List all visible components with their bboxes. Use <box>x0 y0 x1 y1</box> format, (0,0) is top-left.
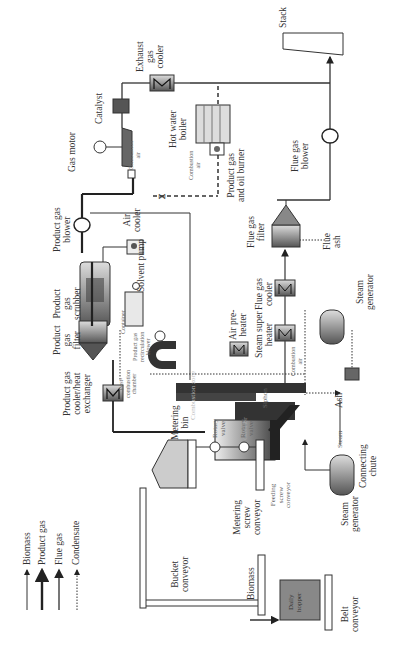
rotary-valve-1-icon <box>210 442 220 452</box>
recirculation-blower-label: Product gas recirculation blower <box>132 332 152 362</box>
legend-flue-gas-label: Flue gas <box>54 533 64 565</box>
hot-water-boiler-icon <box>196 105 230 155</box>
steam-generator-bottom-icon <box>330 455 354 495</box>
process-flow-diagram: ⋈ <box>0 0 405 664</box>
air-preheater-icon <box>230 342 248 356</box>
bucket-conveyor-label: Bucket conveyor <box>170 557 190 592</box>
product-gas-blower-label: Product gas blower <box>52 207 72 252</box>
belt-conveyor-icon <box>325 575 332 630</box>
svg-text:⋈: ⋈ <box>158 192 166 201</box>
stack-icon <box>283 33 343 55</box>
gas-motor-label: Gas motor <box>67 132 77 172</box>
feeding-screw-icon <box>256 440 264 490</box>
product-gas-cooler-label: Product gas cooler/heat exchanger <box>62 371 92 416</box>
legend-biomass-label: Biomass <box>22 532 32 565</box>
feeding-screw-conveyor-label: Feeding screw conveyor <box>270 482 293 508</box>
flue-gas-blower-label: Flue gas blower <box>290 140 310 172</box>
biomass-input-label: Biomass <box>246 567 256 600</box>
steam-superheater-label: Steam super heater <box>254 311 274 358</box>
siphon-label: Siphon <box>260 388 270 408</box>
air-cooler-label: Air cooler <box>122 208 142 232</box>
flue-gas-filter-label: Flue gas filter <box>246 216 266 248</box>
metering-screw-conveyor-label: Metering screw conveyor <box>232 500 262 535</box>
steam-superheater-icon <box>275 325 295 341</box>
stack-label: Stack <box>278 7 288 28</box>
container-label: Container <box>120 310 127 334</box>
steam-generator-top-label: Steam generator <box>355 274 375 310</box>
legend-product-gas-label: Product gas <box>37 520 47 565</box>
product-gas-scrubber-label: Product gas scrubber <box>52 287 82 320</box>
product-gas-scrubber-icon <box>80 262 110 326</box>
exhaust-gas-cooler-icon <box>150 75 174 91</box>
rotary-valve-1-label: Rotary valve <box>212 419 227 438</box>
ash-label: Ash <box>334 393 344 408</box>
rotary-valve-2-label: Rotary valve <box>240 419 255 438</box>
product-gas-filter-label: Product gas filter <box>52 325 82 355</box>
catalyst-icon <box>113 99 129 113</box>
steam-label: Steam <box>337 431 344 449</box>
recirculation-blower-icon <box>155 331 165 341</box>
metering-screw-icon <box>188 440 196 488</box>
flue-gas-filter-icon <box>272 205 300 247</box>
combustion-air-label-1: Combustion air <box>128 141 141 170</box>
steam-generator-top-icon <box>320 310 344 344</box>
legend <box>27 570 77 610</box>
connecting-chute-label: Connecting chute <box>358 444 378 488</box>
post-combustion-chamber-label: Post- combustion chamber <box>118 370 138 398</box>
air-preheater-label: Air pre- heater <box>228 310 248 340</box>
combustion-air-label-3: Combustion air <box>290 347 303 376</box>
metering-bin-label: Metering bin <box>170 405 190 440</box>
container-icon <box>125 292 143 326</box>
catalyst-label: Catalyst <box>94 93 104 124</box>
metering-bin-icon <box>152 440 188 488</box>
combustion-air-label-2: Combustion air <box>188 151 201 180</box>
hot-water-boiler-label: Hot water boiler <box>168 110 188 148</box>
post-combustion-chamber-icon <box>148 341 176 369</box>
flue-ash-label: Flue ash <box>322 233 342 250</box>
generator-icon <box>94 141 106 153</box>
exhaust-gas-cooler-label: Exhaust gas cooler <box>135 41 165 72</box>
daily-hopper-label: Daily hopper <box>288 593 303 612</box>
belt-conveyor-label: Belt conveyor <box>340 597 360 632</box>
product-gas-filter-icon <box>79 321 107 360</box>
product-gas-oil-burner-label: Product gas and oil burner <box>226 149 246 202</box>
solvent-pump-label: Solvent pump <box>136 239 146 292</box>
flue-gas-blower-icon <box>322 129 338 143</box>
legend-condensate-label: Condensate <box>71 521 81 565</box>
flue-gas-cooler-label: Flue gas cooler <box>254 278 274 310</box>
heat-exchanger-icon <box>345 368 359 380</box>
steam-generator-bottom-label: Steam generator <box>340 496 360 532</box>
bucket-conveyor-icon <box>140 488 146 608</box>
flue-gas-cooler-icon <box>275 280 295 296</box>
product-gas-blower-icon <box>74 218 90 232</box>
rotary-valve-2-icon <box>239 442 249 452</box>
